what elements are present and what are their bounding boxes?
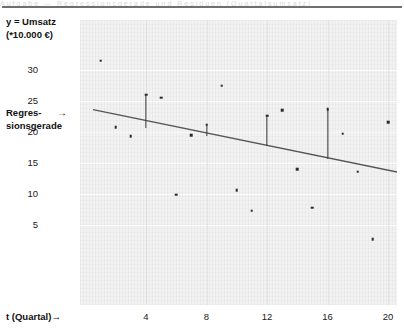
regression-annotation-line1: Regres- [6, 107, 41, 119]
chart-page: Aufgabe — Regressionsgerade und Residuen… [0, 0, 404, 334]
data-point [311, 206, 314, 209]
residual-stem [145, 95, 146, 128]
residual-stem [206, 125, 207, 137]
data-point [341, 133, 344, 136]
header-divider [2, 6, 402, 8]
x-tick-label: 20 [378, 311, 398, 322]
data-point [296, 168, 299, 171]
x-tick-label: 16 [318, 311, 338, 322]
x-tick-label: 4 [136, 311, 156, 322]
regression-annotation-arrow-icon: → [57, 107, 67, 118]
y-tick-label: 5 [8, 220, 38, 230]
y-tick-label: 30 [8, 65, 38, 75]
y-tick-label: 15 [8, 158, 38, 168]
y-axis-label-line1: y = Umsatz [6, 16, 56, 28]
data-point [130, 135, 133, 138]
data-point [326, 108, 329, 111]
data-point [281, 109, 284, 112]
data-point [145, 94, 148, 97]
data-point [387, 121, 390, 124]
data-point [99, 59, 102, 62]
x-tick-label: 8 [197, 311, 217, 322]
residual-stem [266, 116, 267, 146]
regression-line [80, 20, 397, 305]
data-point [190, 134, 193, 137]
x-tick-label: 12 [257, 311, 277, 322]
residual-stem [327, 109, 328, 159]
data-point [205, 123, 208, 126]
data-point [160, 97, 163, 100]
data-point [356, 170, 359, 173]
plot-area [80, 20, 397, 305]
data-point [251, 209, 254, 212]
y-tick-label: 25 [8, 96, 38, 106]
y-axis-label-line2: (*10.000 €) [6, 29, 53, 41]
data-point [372, 238, 375, 241]
data-point [235, 189, 238, 192]
y-tick-label: 20 [8, 127, 38, 137]
data-point [175, 193, 178, 196]
x-axis-label: t (Quartal)→ [6, 311, 61, 322]
y-tick-label: 10 [8, 189, 38, 199]
data-point [220, 84, 223, 87]
data-point [114, 126, 117, 129]
data-point [266, 115, 269, 118]
